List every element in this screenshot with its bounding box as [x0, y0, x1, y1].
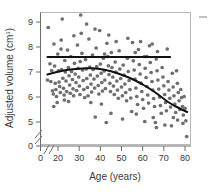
scatter-point	[139, 40, 143, 44]
scatter-point	[181, 113, 185, 117]
scatter-point	[58, 91, 62, 95]
scatter-point	[175, 69, 179, 73]
scatter-point	[153, 105, 157, 109]
scatter-point	[77, 75, 81, 79]
scatter-point	[168, 96, 172, 100]
y-axis-title: Adjusted volume (cm3)	[4, 28, 15, 128]
scatter-point	[51, 89, 55, 93]
x-tick-label: 20	[53, 153, 63, 163]
scatter-point	[52, 105, 56, 109]
scatter-point	[165, 47, 169, 51]
scatter-point	[171, 85, 175, 89]
scatter-point	[126, 70, 130, 74]
scatter-point	[121, 63, 125, 67]
scatter-point	[163, 123, 167, 127]
scatter-point	[97, 92, 101, 96]
scatter-point	[101, 89, 105, 93]
scatter-point	[167, 88, 171, 92]
scatter-point	[121, 117, 125, 121]
scatter-point	[86, 86, 90, 90]
scatter-point	[170, 124, 174, 128]
scatter-point	[107, 33, 111, 37]
scatter-point	[109, 111, 113, 115]
scatter-point	[120, 85, 124, 89]
y-axis-title-main: Adjusted volume (cm	[4, 35, 15, 128]
scatter-point	[49, 80, 53, 84]
scatter-point	[104, 121, 108, 125]
scatter-point	[59, 47, 63, 51]
y-tick-label: 7	[28, 67, 33, 77]
scatter-point	[60, 17, 64, 21]
scatter-point	[78, 60, 82, 64]
scatter-point	[126, 36, 130, 40]
scatter-point	[78, 93, 82, 97]
scatter-point	[115, 79, 119, 83]
scatter-point	[89, 101, 93, 105]
scatter-point	[143, 66, 147, 70]
scatter-point	[161, 75, 165, 79]
scatter-point	[93, 27, 97, 31]
scatter-point	[172, 94, 176, 98]
scatter-point	[108, 81, 112, 85]
scatter-point	[79, 31, 83, 35]
scatter-point	[64, 79, 68, 83]
scatter-point	[90, 90, 94, 94]
scatter-point	[62, 93, 66, 97]
scatter-point	[137, 48, 141, 52]
scatter-point	[68, 91, 72, 95]
y-tick-label: 9	[28, 17, 33, 27]
scatter-point	[162, 84, 166, 88]
scatter-point	[155, 126, 159, 130]
scatter-point	[65, 90, 69, 94]
scatter-point	[129, 96, 133, 100]
scatter-point	[163, 93, 167, 97]
scatter-point	[103, 78, 107, 82]
scatter-point	[99, 71, 103, 75]
scatter-point	[80, 51, 84, 55]
scatter-point	[76, 43, 80, 47]
scatter-point	[96, 74, 100, 78]
scatter-point	[74, 81, 78, 85]
scatter-point	[85, 77, 89, 81]
scatter-point	[46, 78, 50, 82]
scatter-point	[63, 98, 67, 102]
scatter-point	[151, 116, 155, 120]
scatter-point	[130, 110, 134, 114]
scatter-point	[67, 100, 71, 104]
scatter-point	[137, 63, 141, 67]
scatter-point	[56, 52, 60, 56]
scatter-point	[98, 62, 102, 66]
x-tick-label: 40	[95, 153, 105, 163]
scatter-point	[150, 42, 154, 46]
scatter-point	[46, 26, 50, 30]
scatter-point	[176, 118, 180, 122]
scatter-point	[185, 135, 189, 139]
scatter-point	[177, 99, 181, 103]
scatter-point	[156, 78, 160, 82]
scatter-point	[67, 74, 71, 78]
scatter-point	[159, 104, 163, 108]
scatter-point	[152, 97, 156, 101]
scatter-point	[51, 92, 55, 96]
scatter-point	[134, 86, 138, 90]
scatter-point	[53, 64, 57, 68]
scatter-point	[112, 84, 116, 88]
scatter-point	[84, 58, 88, 62]
scatter-point	[148, 61, 152, 65]
scatter-point	[182, 95, 186, 99]
x-tick-label: 30	[74, 153, 84, 163]
scatter-point	[143, 120, 147, 124]
scatter-point	[96, 84, 100, 88]
x-tick-label: 70	[159, 153, 169, 163]
scatter-point	[170, 71, 174, 75]
scatter-point	[57, 80, 61, 84]
scatter-point	[73, 72, 77, 76]
scatter-point	[179, 88, 183, 92]
scatter-point	[165, 109, 169, 113]
scatter-point	[136, 103, 140, 107]
scatter-point	[110, 66, 114, 70]
scatter-point	[121, 94, 125, 98]
scatter-point	[181, 121, 185, 125]
scatter-point	[166, 80, 170, 84]
scatter-point	[94, 46, 98, 50]
